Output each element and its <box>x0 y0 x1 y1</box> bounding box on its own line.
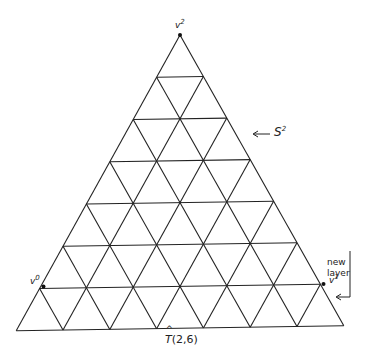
new-layer-line2: layer <box>327 268 350 279</box>
vertex-v0-dot <box>42 285 46 289</box>
vertex-v1-dot <box>322 282 326 286</box>
simplex-s2-label: S2 <box>274 125 286 139</box>
grid-edge <box>203 201 273 328</box>
grid-edge <box>297 284 320 326</box>
triangle-grid <box>16 35 344 331</box>
new-layer-label: new layer <box>327 257 350 279</box>
grid-edge <box>157 77 204 78</box>
caption-args: (2,6) <box>172 333 198 346</box>
caption-symbol: T <box>165 333 172 346</box>
vertex-v0-label: v0 <box>30 276 40 286</box>
grid-edge <box>63 243 297 247</box>
grid-edge <box>40 289 63 331</box>
triangulation-diagram <box>0 0 369 359</box>
vertex-v2-dot <box>178 33 182 37</box>
grid-edge <box>110 160 250 162</box>
grid-edge <box>157 77 297 326</box>
grid-edge <box>86 204 156 329</box>
s2-arrow <box>253 131 270 137</box>
new-layer-line1: new <box>327 257 350 268</box>
grid-edge <box>110 118 227 329</box>
figure-caption: T(2,6) <box>165 333 198 346</box>
grid-edge <box>180 35 344 326</box>
grid-edge <box>133 120 250 328</box>
vertex-v2-label: v2 <box>175 20 185 30</box>
